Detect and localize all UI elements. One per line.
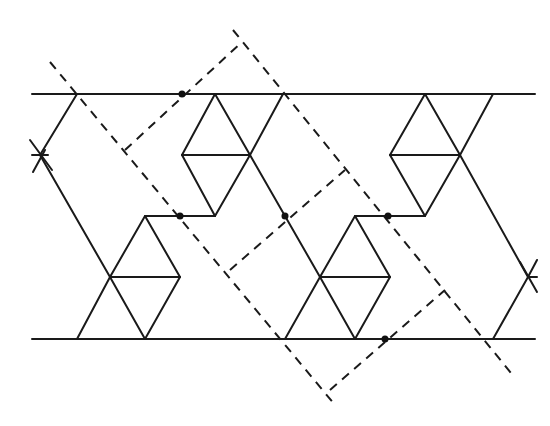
pattern-segment <box>355 277 390 339</box>
point-a <box>179 91 186 98</box>
pattern-segment <box>215 155 250 216</box>
point-e <box>382 336 389 343</box>
pattern-segment <box>145 216 180 277</box>
pattern-segment <box>460 94 493 155</box>
point-c <box>282 213 289 220</box>
pattern-segment <box>460 155 528 277</box>
pattern-segment <box>355 216 390 277</box>
dashed-segment <box>233 30 515 378</box>
pattern-segment <box>425 94 460 155</box>
pattern-segment <box>110 277 145 339</box>
point-b <box>177 213 184 220</box>
pattern-segment <box>40 94 77 155</box>
pattern-segment <box>40 155 110 277</box>
pattern-segment <box>320 277 355 339</box>
pattern-segment <box>215 94 250 155</box>
pattern-segment <box>320 216 355 277</box>
frieze-pattern-diagram <box>0 0 550 426</box>
point-d <box>385 213 392 220</box>
pattern-segment <box>145 277 180 339</box>
pattern-segment <box>285 277 320 339</box>
pattern-segment <box>493 277 528 339</box>
pattern-segment <box>182 94 215 155</box>
pattern-segment <box>77 277 110 339</box>
dashed-segment <box>50 62 335 405</box>
pattern-segment <box>425 155 460 216</box>
pattern-segment <box>390 155 425 216</box>
pattern-segment <box>390 94 425 155</box>
pattern-segment <box>182 155 215 216</box>
pattern-segment <box>250 94 283 155</box>
pattern-segment <box>528 260 537 277</box>
pattern-segment <box>110 216 145 277</box>
